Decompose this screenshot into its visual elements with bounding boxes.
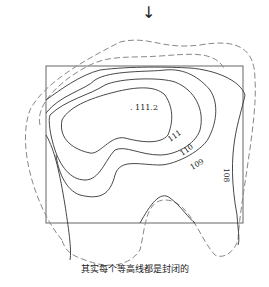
contour-dashed-inner	[39, 54, 225, 125]
contour-108	[46, 67, 245, 245]
map-frame	[46, 66, 243, 223]
contour-label-108: 108	[222, 168, 231, 183]
contour-label-109: 109	[189, 157, 206, 172]
contour-map: . 111.2 111 110 109 108	[0, 0, 269, 287]
peak-label: . 111.2	[130, 103, 158, 112]
contour-label-111: 111	[166, 128, 183, 144]
caption: 其实每个等高线都是封闭的	[0, 262, 269, 275]
contour-label-110: 110	[178, 142, 195, 158]
